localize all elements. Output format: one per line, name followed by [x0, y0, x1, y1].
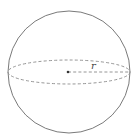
sphere-diagram: r [0, 0, 139, 138]
center-point [67, 71, 70, 74]
sphere-figure: r [0, 0, 139, 138]
